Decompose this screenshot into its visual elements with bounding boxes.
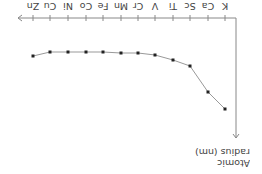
- data-point-marker: [172, 59, 175, 62]
- x-tick-label: V: [151, 1, 158, 12]
- y-axis-label: Atomicradius (nm): [195, 147, 250, 169]
- data-point-marker: [189, 65, 192, 68]
- axes: [18, 15, 239, 138]
- x-tick-label: Cr: [133, 1, 144, 12]
- x-tick-label: Co: [80, 1, 93, 12]
- data-point-marker: [224, 108, 227, 111]
- x-tick-label: Zn: [27, 1, 40, 12]
- line-chart: KCaScTiVCrMnFeCoNiCuZn Atomicradius (nm): [0, 0, 262, 174]
- x-tick-label: Sc: [184, 1, 195, 12]
- x-tick-label: Ni: [63, 1, 73, 12]
- x-tick-label: K: [221, 1, 228, 12]
- data-point-marker: [137, 52, 140, 55]
- data-point-marker: [207, 91, 210, 94]
- x-tick-label: Cu: [44, 1, 57, 12]
- data-point-marker: [102, 51, 105, 54]
- data-point-marker: [120, 52, 123, 55]
- y-axis-label-line: Atomic: [217, 158, 250, 169]
- chart-figure: KCaScTiVCrMnFeCoNiCuZn Atomicradius (nm): [0, 0, 262, 174]
- data-line: [33, 52, 225, 109]
- x-tick-label: Ti: [169, 1, 178, 12]
- data-markers: [32, 51, 227, 111]
- data-point-marker: [67, 51, 70, 54]
- data-point-marker: [85, 51, 88, 54]
- data-point-marker: [49, 51, 52, 54]
- y-axis-label-line: radius (nm): [195, 147, 250, 158]
- x-tick-label: Fe: [97, 1, 108, 12]
- data-point-marker: [154, 54, 157, 57]
- data-point-marker: [32, 55, 35, 58]
- x-tick-label: Ca: [202, 1, 214, 12]
- x-tick-label: Mn: [114, 1, 128, 12]
- series-line: [33, 52, 225, 109]
